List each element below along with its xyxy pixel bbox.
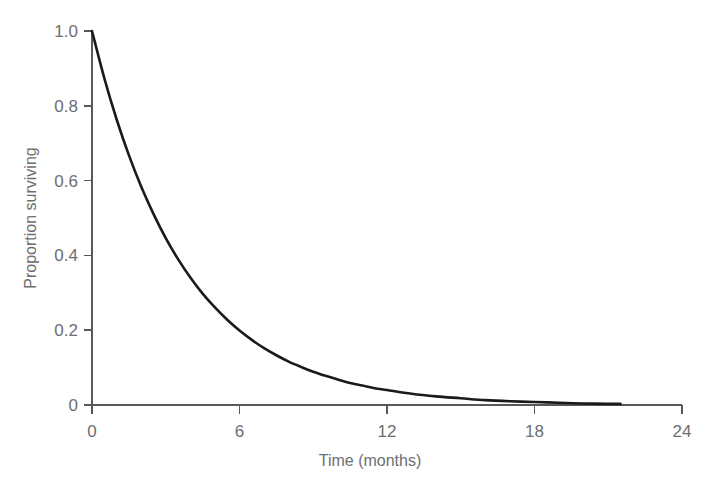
survival-curve bbox=[92, 31, 621, 404]
x-tick-label: 0 bbox=[87, 422, 96, 441]
plot-area: 00.20.40.60.81.0 06121824 Time (months) … bbox=[0, 0, 716, 484]
x-axis-ticks: 06121824 bbox=[87, 405, 691, 441]
x-tick-label: 12 bbox=[378, 422, 397, 441]
y-tick-label: 0.6 bbox=[54, 172, 78, 191]
x-tick-label: 24 bbox=[673, 422, 692, 441]
x-tick-label: 6 bbox=[235, 422, 244, 441]
x-tick-label: 18 bbox=[525, 422, 544, 441]
y-axis-title: Proportion surviving bbox=[22, 147, 39, 288]
y-tick-label: 0 bbox=[69, 396, 78, 415]
y-tick-label: 0.2 bbox=[54, 321, 78, 340]
y-tick-label: 0.4 bbox=[54, 246, 78, 265]
x-axis-title: Time (months) bbox=[319, 452, 422, 469]
survival-chart: 00.20.40.60.81.0 06121824 Time (months) … bbox=[0, 0, 716, 484]
y-axis-ticks: 00.20.40.60.81.0 bbox=[54, 22, 92, 415]
y-tick-label: 0.8 bbox=[54, 97, 78, 116]
y-tick-label: 1.0 bbox=[54, 22, 78, 41]
